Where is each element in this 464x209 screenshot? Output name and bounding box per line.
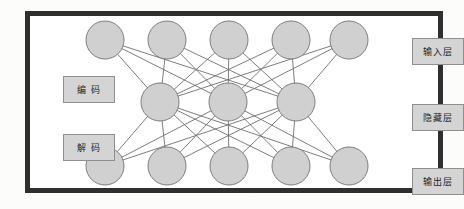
neuron-node-output-5 <box>330 147 368 185</box>
layer-label-input: 输入层 <box>412 38 464 65</box>
connection-line <box>160 102 349 166</box>
neuron-node-input-5 <box>330 21 368 59</box>
connection-line <box>105 40 296 102</box>
neuron-node-input-4 <box>272 21 310 59</box>
layer-label-hidden: 隐藏层 <box>412 104 464 131</box>
neuron-node-hidden-3 <box>277 83 315 121</box>
output-layer-nodes <box>86 147 368 185</box>
neuron-node-output-2 <box>148 147 186 185</box>
input-layer-nodes <box>86 21 368 59</box>
neuron-node-input-1 <box>86 21 124 59</box>
neuron-node-output-4 <box>272 147 310 185</box>
neuron-node-hidden-1 <box>141 83 179 121</box>
connection-line <box>160 40 349 102</box>
neuron-node-input-3 <box>210 21 248 59</box>
connection-line <box>105 102 296 166</box>
layer-label-output: 输出层 <box>412 168 464 195</box>
figure-frame: 输入层 隐藏层 输出层 编 码 解 码 <box>25 11 443 193</box>
stage-label-encode: 编 码 <box>63 76 115 103</box>
neuron-node-output-3 <box>210 147 248 185</box>
neuron-node-hidden-2 <box>209 83 247 121</box>
stage-label-decode: 解 码 <box>63 134 115 161</box>
hidden-layer-nodes <box>141 83 315 121</box>
neuron-node-input-2 <box>148 21 186 59</box>
